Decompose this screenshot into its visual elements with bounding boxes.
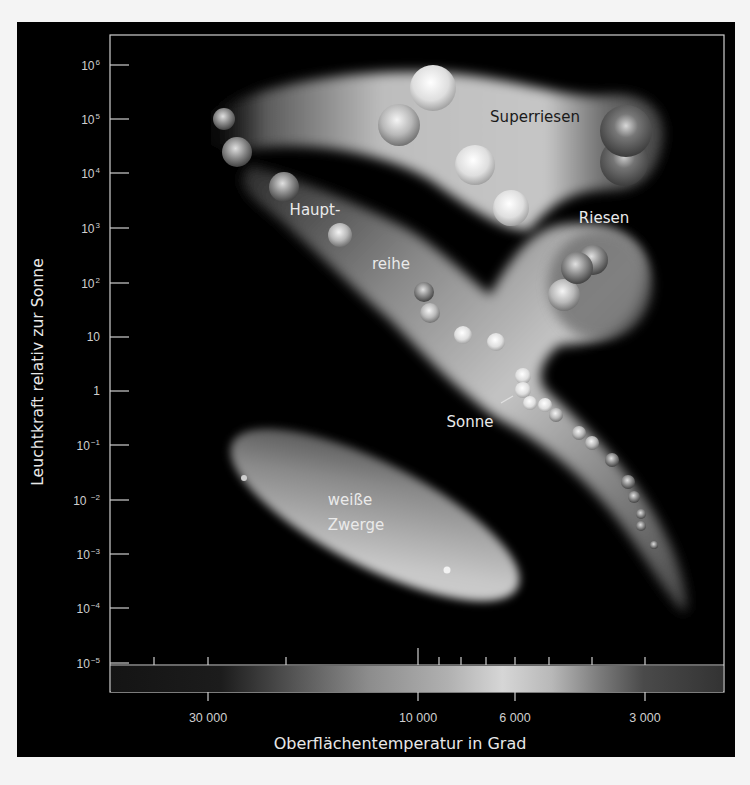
- label-sonne: Sonne: [447, 413, 494, 431]
- y-tick-label: 104: [81, 166, 100, 181]
- y-tick-label: 10−1: [77, 438, 100, 453]
- temperature-colorbar: [111, 666, 723, 692]
- y-tick-label: 10 −2: [73, 493, 100, 508]
- label-riesen: Riesen: [579, 209, 629, 227]
- y-axis-title: Leuchtkraft relativ zur Sonne: [29, 258, 47, 486]
- hr-diagram-plot: [0, 0, 750, 785]
- x-axis-title: Oberflächentemperatur in Grad: [274, 734, 527, 753]
- x-tick-label: 10 000: [399, 711, 437, 725]
- sun-star: [515, 382, 531, 398]
- label-zwerge: Zwerge: [328, 516, 384, 534]
- y-tick-label: 105: [81, 112, 100, 127]
- y-tick-label: 10−5: [77, 656, 100, 671]
- label-weisse: weiße: [328, 491, 372, 509]
- label-haupt: Haupt-: [290, 201, 341, 219]
- y-tick-label: 10−3: [77, 547, 100, 562]
- label-reihe: reihe: [372, 255, 410, 273]
- label-superriesen: Superriesen: [490, 108, 580, 126]
- y-tick-label: 106: [81, 58, 100, 73]
- x-tick-label: 30 000: [189, 711, 227, 725]
- x-tick-label: 3 000: [629, 711, 660, 725]
- y-tick-label: 103: [81, 221, 100, 236]
- y-tick-label: 10: [87, 330, 100, 344]
- y-tick-label: 1: [93, 384, 100, 398]
- y-tick-label: 10−4: [77, 601, 100, 616]
- x-tick-label: 6 000: [499, 711, 530, 725]
- y-tick-marks: [110, 65, 129, 663]
- region-white-dwarfs: [209, 396, 541, 634]
- y-tick-label: 102: [81, 276, 100, 291]
